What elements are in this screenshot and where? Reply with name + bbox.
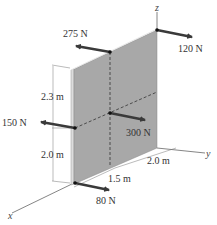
panel-face — [74, 30, 157, 184]
dim-1-5m-label: 1.5 m — [108, 173, 131, 184]
force-80-label: 80 N — [96, 195, 116, 206]
x-axis-label: x — [7, 210, 13, 221]
statics-diagram: z y x 275 N 120 N 150 N 300 N 80 N 2.3 m… — [0, 0, 217, 225]
y-axis-label: y — [205, 148, 211, 159]
dim-2-0m-vertical-label: 2.0 m — [41, 149, 64, 160]
force-275-arrow — [76, 46, 110, 52]
y-axis — [157, 148, 205, 153]
dim-2-0m-horizontal-label: 2.0 m — [147, 155, 170, 166]
force-120-label: 120 N — [178, 43, 203, 54]
dim-2-3m-label: 2.3 m — [41, 91, 64, 102]
force-80-arrow — [75, 183, 109, 190]
x-axis — [12, 183, 74, 213]
force-300-label: 300 N — [126, 127, 151, 138]
z-axis-label: z — [154, 2, 159, 13]
force-120-arrow — [157, 30, 192, 37]
force-150-arrow — [41, 122, 75, 128]
force-275-label: 275 N — [63, 28, 88, 39]
force-150-label: 150 N — [2, 117, 27, 128]
